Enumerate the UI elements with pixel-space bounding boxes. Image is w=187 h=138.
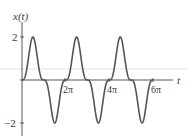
x-tick-label-4pi: 4π [107, 84, 117, 95]
x-axis-label: t [177, 74, 181, 86]
x-tick-label-6pi: 6π [151, 84, 161, 95]
y-tick-label-2: 2 [12, 31, 18, 43]
waveform-chart: x(t) 2 −2 t 2π 4π 6π [0, 0, 187, 138]
signal-curve [22, 37, 153, 123]
x-tick-label-2pi: 2π [63, 84, 73, 95]
y-tick-label-neg2: −2 [4, 117, 16, 129]
y-axis-label: x(t) [12, 10, 29, 23]
